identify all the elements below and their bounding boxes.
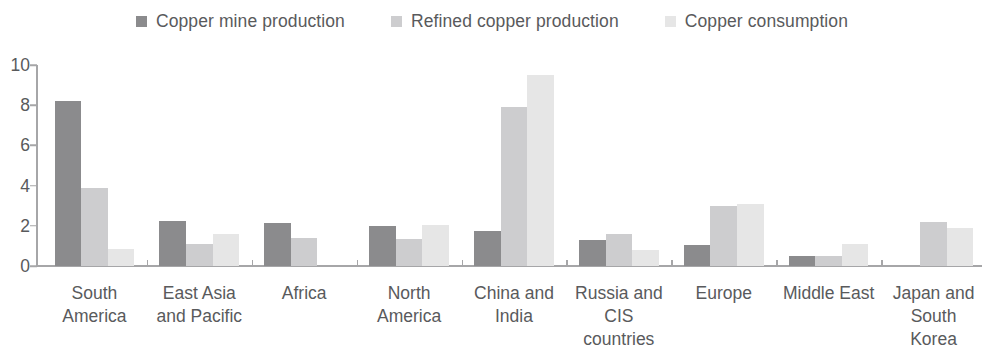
x-axis-category-label-line: America [357,305,462,328]
legend-swatch-mine [136,16,147,27]
x-axis-category-label-line: Korea [881,328,984,351]
x-axis-category-label: Japan andSouthKorea [881,282,984,351]
bar [55,101,82,266]
legend-swatch-consumption [665,16,676,27]
x-axis-category-label-line: Russia and [566,282,671,305]
bars-area [38,65,982,266]
y-axis-tick-mark [30,145,37,147]
x-axis-category-label: Africa [252,282,357,305]
bar [186,244,213,266]
bar [710,206,737,266]
y-axis-tick-labels: 0246810 [0,58,30,266]
x-axis-category-label-line: China and [462,282,567,305]
bar-group [55,65,135,266]
x-axis-category-label-line: India [462,305,567,328]
x-axis-category-label-line: America [42,305,147,328]
bar [815,256,842,266]
x-axis-category-label: Russia andCIScountries [566,282,671,351]
x-axis-group-tick [776,260,778,266]
y-axis-tick-label: 6 [20,135,30,156]
x-axis-category-label-line: North [357,282,462,305]
legend-item-label: Refined copper production [411,11,619,32]
x-axis-group-tick [881,260,883,266]
legend-swatch-refined [391,16,402,27]
x-axis-category-label-line: CIS [566,305,671,328]
x-axis-group-tick [566,260,568,266]
bar [422,225,449,266]
bar [606,234,633,266]
bar [920,222,947,266]
x-axis-category-label-line: East Asia [147,282,252,305]
legend-item: Refined copper production [391,11,619,32]
x-axis-category-label: NorthAmerica [357,282,462,328]
bar-group [474,65,554,266]
bar [684,245,711,266]
bar [501,107,528,266]
bar [632,250,659,266]
bar-group [264,65,344,266]
y-axis-tick-mark [30,265,37,267]
bar [789,256,816,266]
x-axis-category-label-line: South [42,282,147,305]
bar-group [684,65,764,266]
x-axis-group-tick [671,260,673,266]
x-axis-category-label-line: countries [566,328,671,351]
x-axis-group-tick [147,260,149,266]
y-axis-tick-label: 4 [20,175,30,196]
x-axis-category-label-line: Europe [671,282,776,305]
bar-group [789,65,869,266]
bar [474,231,501,266]
y-axis-tick-label: 0 [20,256,30,277]
y-axis-tick-mark [30,64,37,66]
y-axis-tick-label: 2 [20,215,30,236]
bar [369,226,396,266]
bar [737,204,764,266]
x-axis-group-tick [252,260,254,266]
y-axis-tick-mark [30,225,37,227]
x-axis-category-labels: SouthAmericaEast Asiaand PacificAfricaNo… [38,282,982,352]
x-axis-category-label-line: and Pacific [147,305,252,328]
bar [213,234,240,266]
x-axis-category-label: SouthAmerica [42,282,147,328]
bar [108,249,135,266]
legend-item-label: Copper mine production [156,11,345,32]
bar [291,238,318,266]
x-axis-category-label: China andIndia [462,282,567,328]
legend-item: Copper mine production [136,11,345,32]
y-axis-tick-label: 10 [11,55,30,76]
x-axis-group-tick [357,260,359,266]
bar [579,240,606,266]
x-axis-category-label-line: Middle East [776,282,881,305]
bar-group [159,65,239,266]
y-axis-tick-mark [30,185,37,187]
x-axis-category-label: Europe [671,282,776,305]
bar [159,221,186,266]
bar [527,75,554,266]
legend-item-label: Copper consumption [685,11,848,32]
x-axis-category-label: Middle East [776,282,881,305]
bar-group [894,65,974,266]
x-axis-category-label-line: Japan and [881,282,984,305]
y-axis-tick-label: 8 [20,95,30,116]
plot-area: 0246810 [0,58,984,276]
bar [264,223,291,266]
bar-group [579,65,659,266]
bar [842,244,869,266]
bar-group [369,65,449,266]
bar [947,228,974,266]
x-axis-category-label-line: Africa [252,282,357,305]
chart-legend: Copper mine productionRefined copper pro… [0,4,984,38]
y-axis-tick-mark [30,104,37,106]
bar [396,239,423,266]
x-axis-category-label-line: South [881,305,984,328]
x-axis-group-tick [462,260,464,266]
x-axis-category-label: East Asiaand Pacific [147,282,252,328]
bar [81,188,108,266]
legend-item: Copper consumption [665,11,848,32]
copper-production-bar-chart: Copper mine productionRefined copper pro… [0,0,984,352]
